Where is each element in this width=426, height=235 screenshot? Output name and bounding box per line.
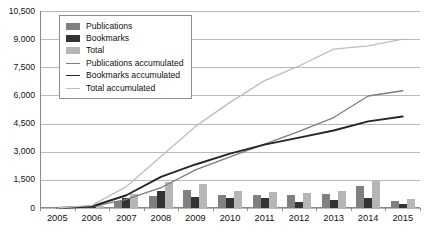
x-axis-tick: [351, 208, 352, 211]
legend-swatch-icon: [66, 23, 80, 30]
legend-item-label: Publications: [86, 22, 132, 31]
legend-swatch-icon: [66, 60, 80, 67]
line-series: [57, 91, 402, 208]
x-axis-tick-label: 2010: [213, 212, 248, 232]
x-axis-tick: [178, 208, 179, 211]
legend-item-label: Total: [86, 46, 104, 55]
y-axis-tick-label: 0: [0, 204, 35, 213]
y-axis-tick-label: 3,000: [0, 147, 35, 156]
line-series: [57, 116, 402, 208]
x-axis-labels: 2005200620072008200920102011201220132014…: [40, 212, 420, 232]
legend-item-label: Total accumulated: [86, 84, 155, 93]
y-axis-tick-label: 6,000: [0, 91, 35, 100]
x-axis-tick: [420, 208, 421, 211]
y-axis-tick-label: 10,500: [0, 7, 35, 16]
legend-item-label: Bookmarks accumulated: [86, 71, 180, 80]
legend-item[interactable]: Bookmarks accumulated: [66, 70, 183, 82]
legend-swatch-icon: [66, 85, 80, 92]
x-axis-tick-label: 2006: [75, 212, 110, 232]
x-axis-tick-label: 2008: [144, 212, 179, 232]
legend-item-label: Bookmarks: [86, 34, 129, 43]
x-axis-tick-label: 2014: [351, 212, 386, 232]
legend-item[interactable]: Publications accumulated: [66, 57, 183, 69]
x-axis-tick: [109, 208, 110, 211]
y-axis-tick-label: 7,500: [0, 63, 35, 72]
gridline: [40, 208, 420, 209]
legend-item[interactable]: Total accumulated: [66, 82, 183, 94]
legend-item-label: Publications accumulated: [86, 59, 183, 68]
x-axis-tick: [75, 208, 76, 211]
x-axis-tick-label: 2011: [247, 212, 282, 232]
chart-legend: PublicationsBookmarksTotalPublications a…: [59, 15, 192, 99]
x-axis-tick-label: 2005: [40, 212, 75, 232]
legend-swatch-icon: [66, 47, 80, 54]
x-axis-tick: [40, 208, 41, 211]
x-axis-tick: [144, 208, 145, 211]
x-axis-tick: [316, 208, 317, 211]
x-axis-tick-label: 2015: [385, 212, 420, 232]
x-axis-tick-label: 2012: [282, 212, 317, 232]
x-axis-tick: [213, 208, 214, 211]
legend-item[interactable]: Bookmarks: [66, 32, 183, 44]
x-axis-tick: [282, 208, 283, 211]
y-axis-tick-label: 9,000: [0, 35, 35, 44]
legend-item[interactable]: Total: [66, 45, 183, 57]
x-axis-tick: [247, 208, 248, 211]
y-axis-tick-label: 1,500: [0, 175, 35, 184]
chart-container: 01,5003,0004,5006,0007,5009,00010,500 20…: [0, 0, 426, 235]
x-axis-tick-label: 2007: [109, 212, 144, 232]
x-axis-tick: [385, 208, 386, 211]
legend-swatch-icon: [66, 72, 80, 79]
legend-swatch-icon: [66, 35, 80, 42]
y-axis-tick-label: 4,500: [0, 119, 35, 128]
x-axis-tick-label: 2013: [316, 212, 351, 232]
legend-item[interactable]: Publications: [66, 20, 183, 32]
x-axis-tick-label: 2009: [178, 212, 213, 232]
